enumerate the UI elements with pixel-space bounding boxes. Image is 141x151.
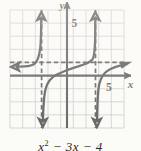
rational-function-figure: y x 5 5 x2 − 3x − 4 bbox=[0, 0, 141, 151]
caption-remainder: − 3x − 4 bbox=[49, 139, 103, 151]
x-tick-label-5: 5 bbox=[106, 81, 112, 93]
function-curve bbox=[11, 12, 128, 127]
curve-middle-arrow-down bbox=[39, 119, 47, 127]
curve-left-arrow-up bbox=[37, 12, 45, 20]
curve-right-arrow-down bbox=[93, 119, 101, 127]
curve-middle-branch bbox=[43, 18, 95, 122]
y-tick-label-5: 5 bbox=[72, 17, 78, 29]
figure-caption: x2 − 3x − 4 bbox=[0, 136, 141, 151]
curve-left-arrow-left bbox=[11, 63, 19, 71]
x-axis-label: x bbox=[127, 78, 134, 90]
y-axis-arrowhead bbox=[64, 2, 70, 9]
curve-middle-arrow-up bbox=[91, 12, 99, 20]
curve-left-branch bbox=[17, 18, 42, 67]
y-axis-label: y bbox=[58, 0, 65, 11]
graph-plot: y x 5 5 bbox=[0, 0, 141, 151]
curve-right-branch bbox=[97, 65, 123, 122]
